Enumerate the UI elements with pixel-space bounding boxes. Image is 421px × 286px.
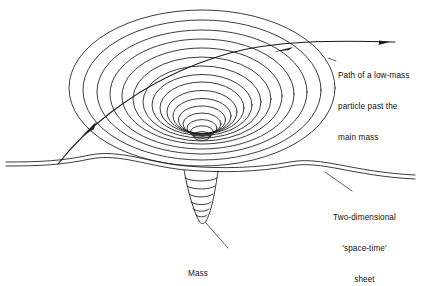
path-label-line-2: particle past the bbox=[338, 102, 409, 112]
funnel-ring-8 bbox=[152, 75, 252, 136]
sheet-label-line-1: Two-dimensional bbox=[333, 213, 396, 223]
funnel-ring-11 bbox=[173, 99, 231, 134]
funnel-ring-1 bbox=[69, 10, 335, 166]
sheet-label-line-3: sheet bbox=[333, 275, 396, 285]
funnel-rings bbox=[69, 10, 335, 166]
mass-label: Mass bbox=[188, 249, 208, 286]
leader-line-path bbox=[328, 58, 336, 61]
funnel-ring-2 bbox=[83, 20, 321, 160]
funnel-ring-6 bbox=[133, 57, 271, 141]
sheet-label-line-2: 'space-time' bbox=[333, 244, 396, 254]
path-label-line-1: Path of a low-mass bbox=[338, 71, 409, 81]
funnel-ring-10 bbox=[167, 91, 237, 134]
space-time-sheet-label: Two-dimensional 'space-time' sheet bbox=[333, 193, 396, 286]
path-of-particle-label: Path of a low-mass particle past the mai… bbox=[338, 51, 409, 163]
mass-label-line-1: Mass bbox=[188, 269, 208, 279]
path-label-line-3: main mass bbox=[338, 133, 409, 143]
occluder-left bbox=[4, 160, 186, 270]
